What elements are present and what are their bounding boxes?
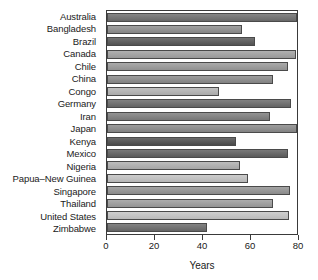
bar-row (107, 135, 297, 147)
bar (107, 50, 296, 59)
category-label: Kenya (0, 135, 100, 148)
x-axis-title: Years (106, 261, 298, 271)
x-tick-label: 60 (245, 241, 256, 251)
category-label: Japan (0, 123, 100, 136)
category-label: Congo (0, 85, 100, 98)
category-label: Chile (0, 60, 100, 73)
bar-row (107, 209, 297, 221)
bar (107, 161, 240, 170)
bar-chart: AustraliaBangladeshBrazilCanadaChileChin… (0, 0, 318, 280)
plot-area (106, 10, 298, 235)
bar-row (107, 23, 297, 35)
bar (107, 99, 291, 108)
bar-row (107, 61, 297, 73)
category-label: Nigeria (0, 160, 100, 173)
bar-row (107, 197, 297, 209)
category-label: United States (0, 210, 100, 223)
category-label: China (0, 73, 100, 86)
bar (107, 112, 270, 121)
bar (107, 37, 255, 46)
bar-row (107, 123, 297, 135)
x-axis: 020406080 (106, 235, 298, 261)
bar-row (107, 160, 297, 172)
bar-row (107, 36, 297, 48)
bar (107, 13, 297, 22)
bar (107, 174, 248, 183)
category-label: Australia (0, 10, 100, 23)
x-tick-label: 40 (197, 241, 208, 251)
bar-row (107, 73, 297, 85)
bar (107, 137, 236, 146)
category-label: Iran (0, 110, 100, 123)
category-label: Zimbabwe (0, 223, 100, 236)
bar (107, 186, 290, 195)
bar-row (107, 11, 297, 23)
bar (107, 124, 297, 133)
bar (107, 87, 219, 96)
bar-row (107, 184, 297, 196)
bar-row (107, 98, 297, 110)
category-label: Thailand (0, 198, 100, 211)
bar (107, 75, 273, 84)
bar (107, 149, 288, 158)
x-tick-label: 0 (103, 241, 108, 251)
bar (107, 211, 289, 220)
bar (107, 25, 242, 34)
bar-row (107, 110, 297, 122)
bar (107, 199, 273, 208)
category-label: Brazil (0, 35, 100, 48)
bars-container (107, 11, 297, 234)
category-label: Canada (0, 48, 100, 61)
bar-row (107, 222, 297, 234)
bar (107, 62, 288, 71)
category-label: Papua–New Guinea (0, 173, 100, 186)
category-label: Bangladesh (0, 23, 100, 36)
category-label: Germany (0, 98, 100, 111)
category-label: Singapore (0, 185, 100, 198)
category-label: Mexico (0, 148, 100, 161)
category-axis-labels: AustraliaBangladeshBrazilCanadaChileChin… (0, 10, 100, 235)
bar-row (107, 85, 297, 97)
bar-row (107, 48, 297, 60)
bar-row (107, 147, 297, 159)
bar-row (107, 172, 297, 184)
x-tick-label: 20 (149, 241, 160, 251)
bar (107, 223, 207, 232)
x-tick-label: 80 (293, 241, 304, 251)
